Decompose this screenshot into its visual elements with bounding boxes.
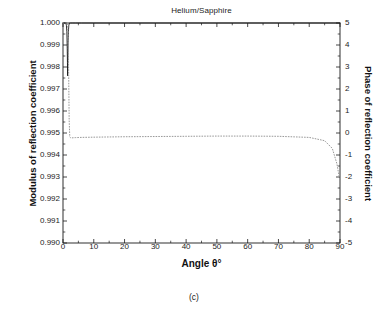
plot-area	[0, 0, 388, 319]
figure-container: Helium/Sapphire Modulus of reflection co…	[0, 0, 388, 319]
plot-frame	[63, 23, 340, 243]
phase-curve	[63, 23, 340, 181]
figure-caption: (c)	[0, 292, 388, 302]
modulus-curve	[63, 23, 340, 76]
